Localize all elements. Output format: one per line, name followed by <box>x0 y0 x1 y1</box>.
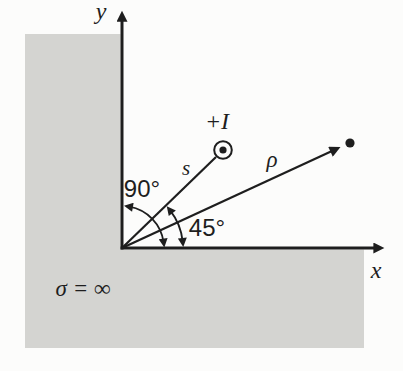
physics-figure-corner-image-problem: y x +I s ρ 90° 45° σ = ∞ <box>0 0 403 371</box>
rho-label: ρ <box>265 147 277 172</box>
y-axis-label: y <box>94 0 107 24</box>
diagram-canvas: y x +I s ρ 90° 45° σ = ∞ <box>0 0 403 371</box>
conductivity-label: σ = ∞ <box>56 276 111 301</box>
corner-angle-label: 90° <box>124 175 160 202</box>
source-angle-label: 45° <box>189 214 225 241</box>
field-point-dot <box>345 138 354 147</box>
current-out-of-page-icon <box>214 141 232 159</box>
x-axis-label: x <box>370 257 382 283</box>
s-label: s <box>182 156 190 180</box>
current-label: +I <box>205 108 230 134</box>
